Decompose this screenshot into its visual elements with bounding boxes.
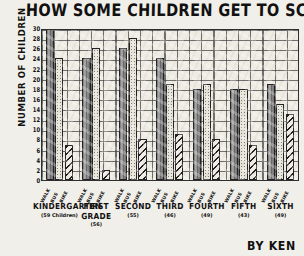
- bar-bike: [212, 139, 220, 180]
- category-label: SIXTH(49): [254, 203, 304, 219]
- bar-walk: [267, 84, 275, 180]
- bar-group: [116, 30, 153, 180]
- bar-walk: [230, 89, 238, 180]
- bar-bike: [65, 145, 73, 180]
- category-name: SIXTH: [254, 202, 304, 212]
- bar-walk: [46, 29, 54, 180]
- bar-bus: [239, 89, 247, 180]
- plot-area: [41, 29, 299, 181]
- author-signature: BY KEN: [247, 239, 296, 253]
- y-tick-18: 18: [33, 87, 40, 93]
- y-tick-12: 12: [33, 117, 40, 123]
- y-tick-24: 24: [33, 56, 40, 62]
- bar-bus: [276, 104, 284, 180]
- y-tick-22: 22: [33, 66, 40, 72]
- y-axis-label: NUMBER OF CHILDREN: [17, 7, 27, 127]
- bar-bus: [92, 48, 100, 180]
- y-tick-28: 28: [33, 36, 40, 42]
- category-count: (56): [70, 221, 123, 228]
- bar-walk: [119, 48, 127, 180]
- category-count: (49): [254, 212, 304, 219]
- y-tick-16: 16: [33, 97, 40, 103]
- bar-walk: [82, 58, 90, 180]
- bar-group: [226, 30, 263, 180]
- category-labels-row: KINDERGARTEN(59 Children)FIRSTGRADE(56)S…: [41, 203, 299, 243]
- y-tick-30: 30: [33, 26, 40, 32]
- bar-group: [42, 30, 79, 180]
- bar-bike: [138, 139, 146, 180]
- chart-title: HOW SOME CHILDREN GET TO SCHOOL: [26, 1, 302, 20]
- bar-series-container: [42, 30, 298, 180]
- bar-bus: [129, 38, 137, 180]
- y-tick-6: 6: [36, 147, 40, 153]
- y-tick-14: 14: [33, 107, 40, 113]
- hand-drawn-bar-chart: HOW SOME CHILDREN GET TO SCHOOL NUMBER O…: [0, 0, 304, 256]
- bar-bike: [249, 145, 257, 180]
- bar-bike: [102, 170, 110, 180]
- y-tick-26: 26: [33, 46, 40, 52]
- bar-walk: [156, 58, 164, 180]
- y-axis-tick-labels: 024681012141618202224262830: [27, 29, 40, 181]
- y-tick-10: 10: [33, 127, 40, 133]
- y-tick-2: 2: [36, 168, 40, 174]
- y-tick-20: 20: [33, 77, 40, 83]
- bar-bus: [55, 58, 63, 180]
- bar-bike: [286, 114, 294, 180]
- bar-bus: [203, 84, 211, 180]
- bar-bus: [166, 84, 174, 180]
- y-tick-0: 0: [36, 178, 40, 184]
- y-tick-4: 4: [36, 158, 40, 164]
- bar-bike: [175, 134, 183, 180]
- bar-group: [153, 30, 190, 180]
- bar-group: [79, 30, 116, 180]
- bar-group: [263, 30, 299, 180]
- bar-walk: [193, 89, 201, 180]
- y-tick-8: 8: [36, 137, 40, 143]
- bar-group: [189, 30, 226, 180]
